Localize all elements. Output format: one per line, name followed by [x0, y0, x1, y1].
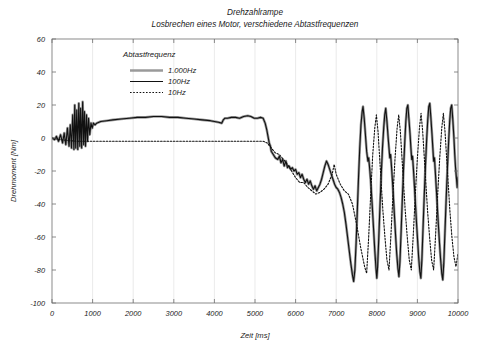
x-tick-label: 5000 — [247, 309, 264, 318]
x-tick-label: 3000 — [166, 309, 183, 318]
y-tick-label: 60 — [37, 35, 46, 44]
y-tick-label: 40 — [37, 68, 46, 77]
chart-container: Drehzahlrampe Losbrechen eines Motor, ve… — [0, 0, 493, 350]
y-axis-label: Drehmoment [Nm] — [9, 139, 18, 202]
x-tick-label: 10000 — [448, 309, 469, 318]
x-tick-label: 6000 — [287, 309, 304, 318]
torque-vs-time-chart: Drehzahlrampe Losbrechen eines Motor, ve… — [0, 0, 493, 350]
y-tick-label: -20 — [34, 167, 46, 176]
legend-title: Abtastfrequenz — [122, 50, 176, 59]
y-tick-label: -80 — [34, 266, 46, 275]
chart-title: Drehzahlrampe — [227, 8, 283, 17]
legend-label-10hz: 10Hz — [168, 88, 186, 97]
x-tick-label: 7000 — [328, 309, 345, 318]
chart-subtitle: Losbrechen eines Motor, verschiedene Abt… — [152, 20, 359, 29]
x-tick-label: 9000 — [409, 309, 426, 318]
legend-label-100hz: 100Hz — [168, 77, 190, 86]
y-tick-label: 20 — [36, 101, 46, 110]
x-axis-label: Zeit [ms] — [239, 331, 270, 340]
x-tick-label: 8000 — [369, 309, 386, 318]
x-tick-label: 4000 — [206, 309, 223, 318]
y-tick-label: -60 — [34, 233, 46, 242]
chart-background — [0, 0, 493, 350]
y-tick-label: -100 — [30, 299, 46, 308]
legend-label-1000hz: 1.000Hz — [168, 66, 196, 75]
x-tick-label: 2000 — [124, 309, 142, 318]
y-tick-label: -40 — [34, 200, 46, 209]
x-tick-label: 1000 — [84, 309, 101, 318]
